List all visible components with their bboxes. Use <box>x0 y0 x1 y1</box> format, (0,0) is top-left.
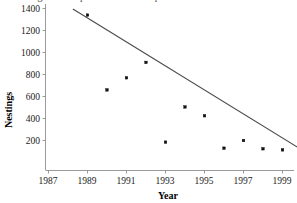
x-tick-1991: 1991 <box>117 176 136 186</box>
x-tick-1989: 1989 <box>78 176 97 186</box>
x-axis-title: Year <box>158 190 179 201</box>
data-point <box>86 14 89 17</box>
data-point-group <box>86 14 284 151</box>
y-tick-200: 200 <box>26 136 41 146</box>
y-tick-1000: 1000 <box>21 48 40 58</box>
data-point <box>164 141 167 144</box>
data-point <box>125 77 128 80</box>
scatter-plot: 1400 1200 1000 800 600 400 200 Nestings … <box>0 0 297 203</box>
x-tick-1997: 1997 <box>234 176 253 186</box>
data-point <box>223 147 226 150</box>
data-point <box>242 139 245 142</box>
x-tick-1995: 1995 <box>195 176 214 186</box>
x-tick-1999: 1999 <box>273 176 292 186</box>
y-tick-labels: 1400 1200 1000 800 600 400 200 <box>21 4 40 146</box>
y-tick-1200: 1200 <box>21 26 40 36</box>
y-tick-1400: 1400 <box>21 4 40 14</box>
y-axis-title: Nestings <box>3 92 14 128</box>
trend-line <box>73 9 297 150</box>
x-tick-labels: 1987 1989 1991 1993 1995 1997 1999 <box>39 176 292 186</box>
x-tick-1987: 1987 <box>39 176 58 186</box>
y-tick-600: 600 <box>26 92 41 102</box>
nestings-vs-year-figure: drawing the first point and the last poi… <box>0 0 297 203</box>
data-point <box>281 149 284 152</box>
data-point <box>145 61 148 64</box>
data-point <box>203 114 206 117</box>
x-tick-1993: 1993 <box>156 176 175 186</box>
data-point <box>262 147 265 150</box>
y-tick-800: 800 <box>26 70 41 80</box>
data-point <box>184 106 187 109</box>
data-point <box>106 89 109 92</box>
y-tick-400: 400 <box>26 114 41 124</box>
